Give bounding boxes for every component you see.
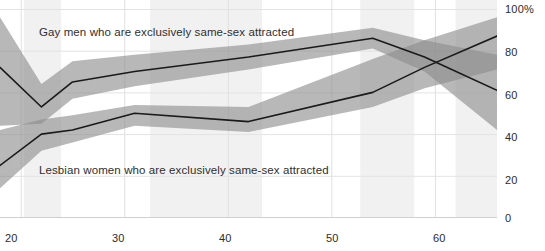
x-axis: 20 30 40 50 60 [0, 232, 545, 251]
y-tick-20: 20 [505, 175, 518, 186]
series-annotation-men: Gay men who are exclusively same-sex att… [39, 26, 294, 38]
chart-root: 100% 80 60 40 20 0 20 30 40 50 60 Gay me… [0, 0, 545, 251]
y-tick-40: 40 [505, 132, 518, 143]
y-tick-80: 80 [505, 47, 518, 58]
y-tick-60: 60 [505, 90, 518, 101]
y-tick-0: 0 [505, 213, 511, 224]
series-annotation-women: Lesbian women who are exclusively same-s… [39, 164, 329, 176]
x-tick-50: 50 [326, 232, 339, 245]
y-axis: 100% 80 60 40 20 0 [505, 0, 545, 226]
y-tick-100: 100% [505, 4, 534, 15]
x-tick-20: 20 [5, 232, 18, 245]
x-tick-60: 60 [433, 232, 446, 245]
x-tick-40: 40 [219, 232, 232, 245]
x-tick-30: 30 [112, 232, 125, 245]
